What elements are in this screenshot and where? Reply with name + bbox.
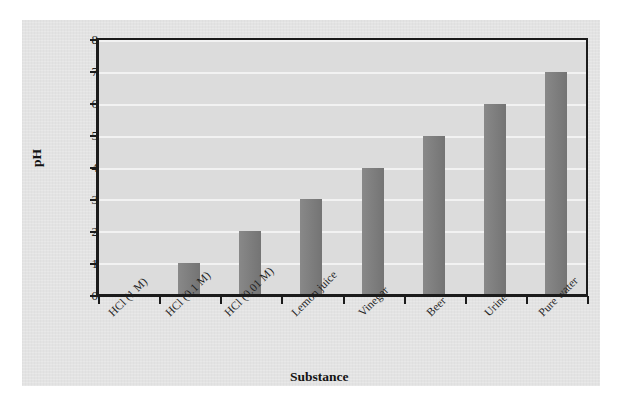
x-tick-mark-3	[281, 296, 283, 304]
gridline-7	[98, 72, 588, 74]
y-axis-title: pH	[29, 149, 45, 167]
x-tick-mark-6	[465, 296, 467, 304]
y-tick-label-1: 1	[74, 257, 98, 270]
bar-urine	[484, 104, 506, 295]
x-tick-mark-4	[343, 296, 345, 304]
x-tick-mark-5	[404, 296, 406, 304]
x-axis-line	[96, 294, 588, 297]
gridline-1	[98, 263, 588, 265]
plot-border-top	[96, 38, 588, 40]
y-tick-label-8: 8	[74, 33, 98, 46]
bar-beer	[423, 136, 445, 295]
y-tick-label-3: 3	[74, 193, 98, 206]
y-tick-label-6: 6	[74, 97, 98, 110]
bar-pure-water	[545, 72, 567, 295]
x-tick-mark-0	[98, 296, 100, 304]
x-axis-title: Substance	[290, 369, 349, 385]
gridline-3	[98, 199, 588, 201]
gridline-5	[98, 136, 588, 138]
plot-border-right	[586, 38, 588, 297]
gridline-4	[98, 168, 588, 170]
y-tick-label-4: 4	[74, 161, 98, 174]
chart-figure: 8 7 6 5 4 3 2 1 0 HCl (1 M) HCl (0.1 M) …	[0, 0, 623, 414]
plot-area	[98, 40, 588, 295]
x-tick-mark-8	[587, 296, 589, 304]
bar-vinegar	[362, 168, 384, 296]
y-tick-label-7: 7	[74, 65, 98, 78]
gridline-8	[98, 40, 588, 42]
x-tick-mark-1	[159, 296, 161, 304]
gridline-2	[98, 231, 588, 233]
y-tick-label-0: 0	[74, 289, 98, 302]
gridline-6	[98, 104, 588, 106]
y-tick-label-2: 2	[74, 225, 98, 238]
y-tick-label-5: 5	[74, 129, 98, 142]
x-tick-mark-7	[526, 296, 528, 304]
x-tick-mark-2	[220, 296, 222, 304]
